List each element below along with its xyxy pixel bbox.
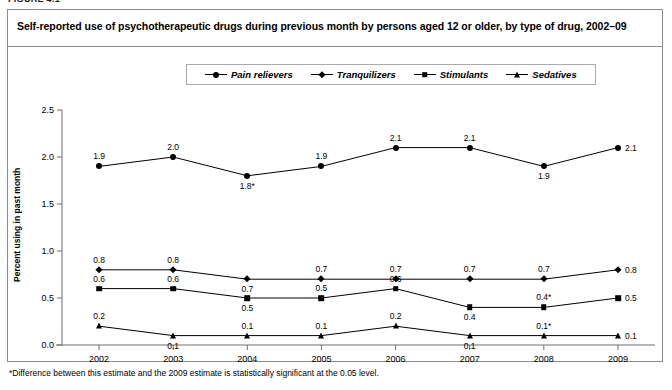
legend-item-pain-relievers: Pain relievers: [205, 69, 293, 80]
triangle-marker-icon: [506, 70, 528, 80]
legend-item-label: Tranquilizers: [337, 69, 396, 80]
legend-item-label: Stimulants: [440, 69, 489, 80]
circle-marker-icon: [205, 70, 227, 80]
title-divider: [8, 46, 662, 47]
square-marker-icon: [414, 70, 436, 80]
legend-item-stimulants: Stimulants: [414, 69, 489, 80]
figure-footnote: *Difference between this estimate and th…: [9, 368, 379, 378]
legend-item-tranquilizers: Tranquilizers: [311, 69, 396, 80]
diamond-marker-icon: [311, 70, 333, 80]
legend-item-label: Pain relievers: [231, 69, 293, 80]
figure-container: FIGURE 4.1 Self-reported use of psychoth…: [0, 0, 672, 390]
legend-item-sedatives: Sedatives: [506, 69, 576, 80]
figure-title: Self-reported use of psychotherapeutic d…: [17, 20, 652, 33]
chart-legend: Pain relieversTranquilizersStimulantsSed…: [186, 64, 596, 85]
legend-item-label: Sedatives: [532, 69, 576, 80]
figure-panel: Self-reported use of psychotherapeutic d…: [7, 9, 663, 362]
figure-number-label: FIGURE 4.1: [8, 0, 60, 4]
